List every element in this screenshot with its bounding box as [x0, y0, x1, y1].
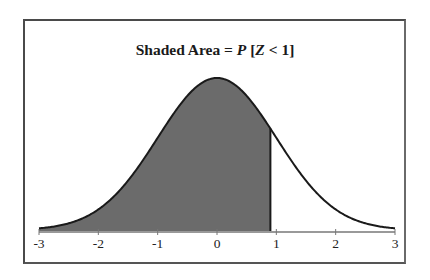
x-tick-label: 3 — [392, 236, 399, 252]
x-tick-label: 1 — [273, 236, 280, 252]
x-tick-label: -1 — [152, 236, 163, 252]
x-tick-label: -2 — [93, 236, 104, 252]
x-tick-label: -3 — [33, 236, 44, 252]
x-tick-label: 2 — [332, 236, 339, 252]
x-tick-label: 0 — [214, 236, 221, 252]
shaded-area — [39, 78, 270, 231]
